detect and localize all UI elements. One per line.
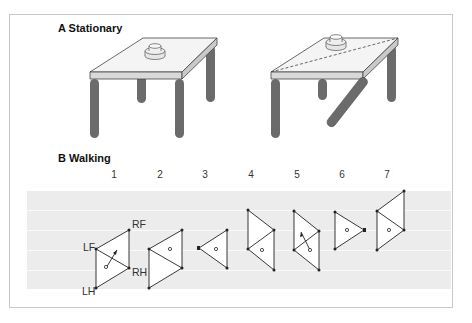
step-label-7: 7 xyxy=(384,169,390,180)
leg-label-lf: LF xyxy=(83,241,95,253)
center-of-mass xyxy=(308,248,311,251)
table-leg-front-left xyxy=(271,79,280,138)
leg-label-rf: RF xyxy=(132,218,146,230)
weight-icon xyxy=(330,35,342,40)
leg-label-rh: RH xyxy=(132,266,147,278)
step-label-6: 6 xyxy=(339,169,345,180)
step-label-5: 5 xyxy=(294,169,300,180)
panel-b-title: B Walking xyxy=(58,152,111,164)
center-of-mass xyxy=(345,228,348,231)
center-of-mass xyxy=(260,248,263,251)
center-of-mass xyxy=(104,265,107,268)
table-leg-front-right xyxy=(175,79,184,138)
step-label-3: 3 xyxy=(202,169,208,180)
table-edge-front xyxy=(271,72,363,79)
center-of-mass xyxy=(214,247,217,250)
step-label-4: 4 xyxy=(248,169,254,180)
leg-label-lh: LH xyxy=(82,285,95,297)
center-of-mass xyxy=(168,247,171,250)
figure-canvas: A Stationary xyxy=(0,0,472,323)
panel-a-title: A Stationary xyxy=(58,22,123,34)
step-label-1: 1 xyxy=(111,169,117,180)
step-label-2: 2 xyxy=(157,169,163,180)
table-edge-front xyxy=(90,72,182,79)
table-leg-front-left xyxy=(90,79,99,138)
weight-icon xyxy=(149,44,161,49)
table-leg-back-left xyxy=(318,79,327,100)
center-of-mass xyxy=(387,228,390,231)
